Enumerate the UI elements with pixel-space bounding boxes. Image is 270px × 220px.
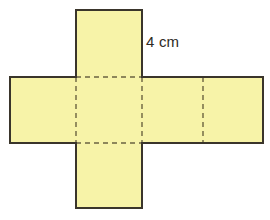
edge-length-label: 4 cm: [146, 34, 179, 49]
net-fill-shape: [10, 10, 263, 208]
cube-net-figure: 4 cm: [0, 0, 270, 220]
cube-net-svg: [0, 0, 270, 220]
